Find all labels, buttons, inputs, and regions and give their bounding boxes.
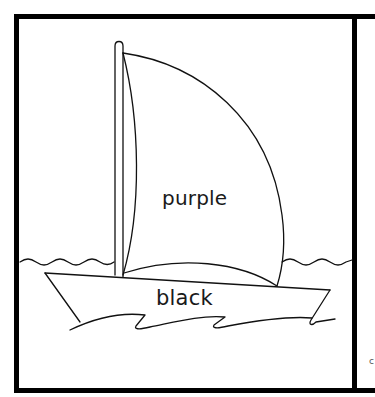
hull-waterline [70,314,312,330]
edge-text-fragment: c [369,356,374,366]
sail-luff [123,53,137,275]
sail-main [123,53,284,286]
hull-bow [45,273,80,322]
hull-stern [310,290,335,324]
hull-color-label: black [156,286,213,310]
wave-left [20,259,114,265]
sail-color-label: purple [162,186,227,210]
mast [115,42,123,278]
wave-right [282,259,352,265]
